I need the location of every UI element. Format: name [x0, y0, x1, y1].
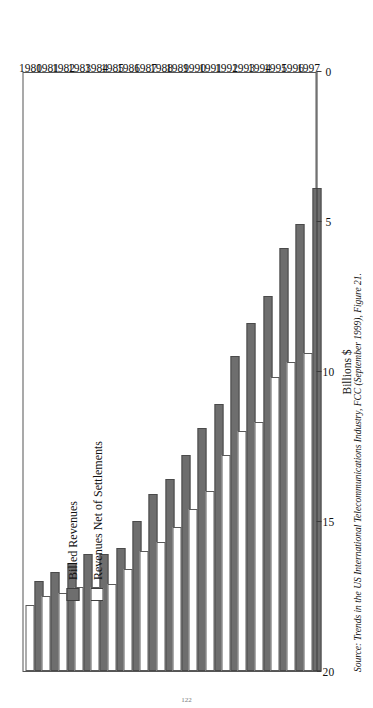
bar-net-1989 [172, 527, 181, 671]
bar-net-1991 [205, 491, 214, 671]
legend-item-billed-revenues: Billed Revenues [63, 441, 82, 601]
legend-swatch-billed-icon [66, 588, 79, 601]
source-label: Source: [352, 643, 362, 672]
bar-net-1986 [123, 569, 132, 671]
value-tick-label-20: 20 [313, 666, 343, 678]
page-number: 122 [0, 696, 373, 704]
bar-chart-figure: Billed Revenues Revenues Net of Settleme… [0, 0, 373, 708]
bar-net-1992 [221, 455, 230, 671]
legend-label-net: Revenues Net of Settlements [88, 441, 107, 580]
bar-net-1994 [254, 422, 263, 671]
chart-legend: Billed Revenues Revenues Net of Settleme… [63, 441, 112, 601]
bar-net-1987 [139, 551, 148, 671]
bar-net-1982 [58, 593, 67, 671]
bar-net-1993 [237, 431, 246, 671]
bar-net-1996 [286, 362, 295, 671]
bar-net-1995 [270, 377, 279, 671]
bar-net-1981 [41, 596, 50, 671]
legend-swatch-net-icon [90, 588, 103, 601]
bar-net-1988 [156, 542, 165, 671]
bar-net-1997 [303, 353, 312, 671]
source-caption: Source: Trends in the US International T… [352, 12, 362, 672]
value-tick-label-5: 5 [313, 216, 343, 228]
value-tick-label-10: 10 [313, 366, 343, 378]
value-axis-title: Billions $ [340, 72, 352, 672]
plot-area: Billed Revenues Revenues Net of Settleme… [22, 72, 316, 672]
rotated-figure-stage: Billed Revenues Revenues Net of Settleme… [0, 0, 373, 708]
category-label-1997: 1997 [296, 62, 319, 74]
bar-net-1980 [25, 605, 34, 671]
bar-net-1990 [188, 509, 197, 671]
legend-item-revenues-net-of-settlements: Revenues Net of Settlements [88, 441, 107, 601]
value-tick-label-15: 15 [313, 516, 343, 528]
legend-label-billed: Billed Revenues [63, 501, 82, 580]
source-text: Trends in the US International Telecommu… [352, 273, 362, 640]
